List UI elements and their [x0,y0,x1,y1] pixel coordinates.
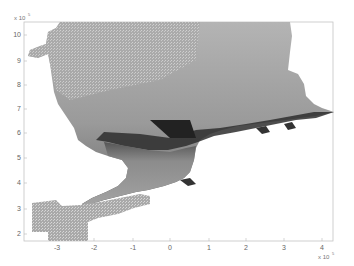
y-exponent-label: x 10 [14,15,26,21]
x-tick-label: 2 [244,244,248,251]
x-exponent-label: x 10 [318,254,330,260]
x-tick-label: -2 [91,244,97,251]
y-tick-label: 7 [17,105,21,112]
x-tick-label: -1 [130,244,136,251]
x-tick-label: 1 [207,244,211,251]
y-tick-label: 4 [17,179,21,186]
y-tick-label: 3 [17,205,21,212]
x-tick-label: 3 [282,244,286,251]
x-exponent-power: 5 [332,251,335,256]
x-tick-label: 4 [320,244,324,251]
y-tick-label: 5 [17,154,21,161]
y-tick-label: 10 [13,31,21,38]
x-tick-label: -3 [54,244,60,251]
map-figure: 10 9 8 7 6 5 4 3 2 x 10 5 -3 -2 -1 0 1 2… [0,0,354,266]
y-tick-label: 8 [17,81,21,88]
y-tick-label: 9 [17,57,21,64]
y-tick-label: 6 [17,129,21,136]
y-tick-label: 2 [17,230,21,237]
x-tick-label: 0 [168,244,172,251]
y-exponent-power: 5 [28,12,31,17]
